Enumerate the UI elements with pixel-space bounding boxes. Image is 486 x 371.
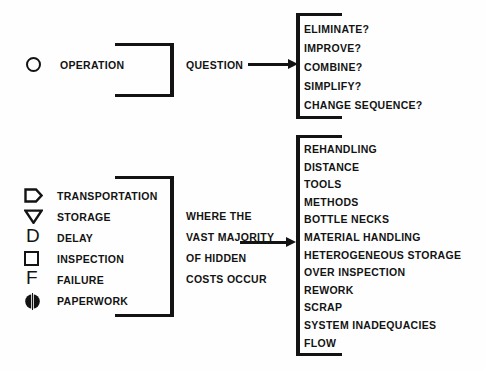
hidden-costs-arrow-head bbox=[286, 237, 296, 247]
hidden-cost-item: TOOLS bbox=[304, 179, 341, 190]
hidden-costs-arrow-line bbox=[240, 241, 288, 244]
inspection-square-symbol bbox=[24, 251, 39, 266]
paperwork-circle-symbol bbox=[24, 293, 41, 310]
question-arrow-line bbox=[248, 63, 290, 66]
circle-operation-symbol bbox=[26, 57, 41, 72]
transportation-arrow-symbol bbox=[24, 188, 43, 203]
diagram-canvas: OPERATION QUESTION ELIMINATE?IMPROVE?COM… bbox=[0, 0, 486, 371]
hidden-cost-item: BOTTLE NECKS bbox=[304, 214, 389, 225]
hidden-cost-item: REWORK bbox=[304, 285, 354, 296]
question-item: SIMPLIFY? bbox=[304, 81, 362, 92]
failure-f-symbol: F bbox=[26, 270, 38, 285]
question-connector-label: QUESTION bbox=[186, 60, 243, 71]
hidden-cost-item: METHODS bbox=[304, 197, 359, 208]
storage-triangle-symbol bbox=[24, 209, 43, 224]
hidden-cost-item: SCRAP bbox=[304, 302, 342, 313]
connector-line: COSTS OCCUR bbox=[186, 274, 267, 285]
question-item: CHANGE SEQUENCE? bbox=[304, 100, 423, 111]
legend-item-label: DELAY bbox=[57, 233, 93, 244]
hidden-cost-item: REHANDLING bbox=[304, 144, 377, 155]
hidden-cost-item: MATERIAL HANDLING bbox=[304, 232, 421, 243]
connector-line: WHERE THE bbox=[186, 211, 252, 222]
question-item: COMBINE? bbox=[304, 62, 362, 73]
question-item: IMPROVE? bbox=[304, 43, 361, 54]
hidden-cost-item: HETEROGENEOUS STORAGE bbox=[304, 250, 461, 261]
hidden-cost-item: DISTANCE bbox=[304, 162, 359, 173]
legend-item-label: STORAGE bbox=[57, 212, 111, 223]
question-item: ELIMINATE? bbox=[304, 24, 369, 35]
hidden-cost-item: OVER INSPECTION bbox=[304, 267, 405, 278]
connector-line: OF HIDDEN bbox=[186, 253, 246, 264]
legend-item-label: FAILURE bbox=[57, 275, 104, 286]
legend-bracket bbox=[115, 176, 174, 317]
hidden-cost-item: SYSTEM INADEQUACIES bbox=[304, 320, 436, 331]
operation-bracket bbox=[115, 43, 174, 97]
delay-d-symbol: D bbox=[26, 228, 40, 243]
hidden-cost-item: FLOW bbox=[304, 338, 336, 349]
